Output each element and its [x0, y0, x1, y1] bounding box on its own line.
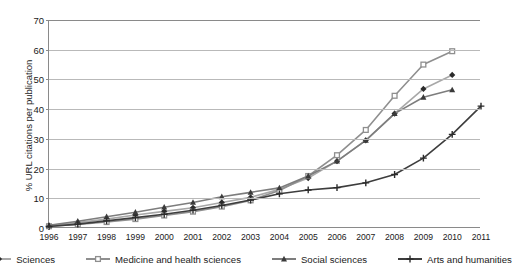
legend-label: Social sciences	[301, 254, 367, 265]
x-axis-tick-label: 2010	[443, 232, 462, 242]
data-point-marker	[335, 153, 340, 158]
legend-item-social-sciences[interactable]: Social sciences	[271, 253, 367, 265]
chart-legend: SciencesMedicine and health sciencesSoci…	[0, 250, 498, 268]
x-axis-tick-label: 1997	[68, 232, 87, 242]
y-axis-tick-label: 30	[18, 134, 44, 143]
x-axis-tick-label: 2001	[183, 232, 202, 242]
legend-label: Medicine and health sciences	[115, 254, 241, 265]
legend-label: Arts and humanities	[427, 254, 512, 265]
legend-marker-square-icon	[85, 253, 111, 265]
data-point-marker	[363, 128, 368, 133]
y-axis-tick-label: 60	[18, 45, 44, 54]
y-axis-tick-mark	[46, 79, 49, 80]
plot-area: 0102030405060701996199719981999200020012…	[48, 20, 480, 228]
x-axis-tick-label: 2008	[385, 232, 404, 242]
x-axis-tick-label: 2002	[212, 232, 231, 242]
data-point-marker	[407, 256, 414, 263]
y-axis-tick-mark	[46, 139, 49, 140]
y-axis-tick-mark	[46, 20, 49, 21]
series-layer	[49, 20, 481, 228]
data-point-marker	[334, 184, 341, 191]
legend-marker-plus-icon	[397, 253, 423, 265]
data-point-marker	[449, 87, 455, 93]
y-axis-tick-mark	[46, 50, 49, 51]
data-point-marker	[391, 171, 398, 178]
series-arts-and-humanities	[46, 103, 485, 230]
legend-marker-triangle-icon	[271, 253, 297, 265]
legend-label: Sciences	[16, 254, 55, 265]
legend-item-medicine-and-health-sciences[interactable]: Medicine and health sciences	[85, 253, 241, 265]
x-axis-tick-label: 2004	[270, 232, 289, 242]
y-axis-tick-label: 70	[18, 16, 44, 25]
y-axis-tick-label: 50	[18, 75, 44, 84]
x-axis-tick-label: 1998	[97, 232, 116, 242]
x-axis-tick-label: 2005	[299, 232, 318, 242]
y-axis-tick-mark	[46, 169, 49, 170]
gridline	[49, 109, 480, 110]
gridline	[49, 50, 480, 51]
x-axis-tick-label: 2006	[327, 232, 346, 242]
data-point-marker	[392, 93, 397, 98]
legend-item-sciences[interactable]: Sciences	[0, 253, 55, 265]
gridline	[49, 79, 480, 80]
data-point-marker	[362, 179, 369, 186]
data-point-marker	[421, 62, 426, 67]
series-line	[49, 106, 481, 226]
y-axis-tick-label: 40	[18, 105, 44, 114]
x-axis-tick-label: 1996	[39, 232, 58, 242]
x-axis-tick-label: 1999	[126, 232, 145, 242]
y-axis-tick-mark	[46, 228, 49, 229]
y-axis-tick-mark	[46, 198, 49, 199]
series-social-sciences	[46, 87, 455, 228]
gridline	[49, 198, 480, 199]
x-axis-tick-label: 2009	[414, 232, 433, 242]
data-point-marker	[96, 257, 101, 262]
y-axis-tick-mark	[46, 109, 49, 110]
x-axis-tick-label: 2000	[155, 232, 174, 242]
data-point-marker	[449, 72, 455, 78]
x-axis-tick-label: 2003	[241, 232, 260, 242]
gridline	[49, 169, 480, 170]
y-axis-tick-label: 10	[18, 194, 44, 203]
data-point-marker	[0, 256, 2, 262]
data-point-marker	[305, 187, 312, 194]
x-axis-tick-label: 2007	[356, 232, 375, 242]
series-line	[49, 90, 452, 226]
legend-item-arts-and-humanities[interactable]: Arts and humanities	[397, 253, 512, 265]
y-axis-tick-label: 20	[18, 164, 44, 173]
legend-marker-diamond-icon	[0, 253, 12, 265]
gridline	[49, 139, 480, 140]
x-axis-tick-label: 2011	[472, 232, 490, 242]
